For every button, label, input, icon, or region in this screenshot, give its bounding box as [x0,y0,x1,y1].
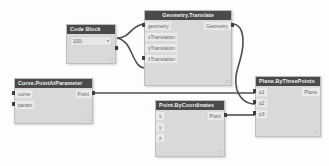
port-nub-in-curve[interactable] [12,91,15,95]
resize-grip-icon[interactable]: ∷ [87,117,90,122]
resize-grip-icon[interactable]: ∷ [219,150,222,155]
wire-geometry-to-p2 [232,24,255,104]
port-row-x: x Point [156,110,224,121]
port-nub-out-point[interactable] [224,113,227,117]
node-curve-point-at-parameter-body: curve Point param ∷ [15,88,92,123]
port-row-xtranslation: xTranslation [145,31,231,42]
port-nub-in-ztranslation[interactable] [142,56,145,60]
port-nub-out-geometry[interactable] [231,23,234,27]
port-in-curve[interactable]: curve [15,89,33,99]
code-block-value-field[interactable]: 100; ▾ [70,36,112,46]
port-nub-in-geometry[interactable] [142,23,145,27]
node-curve-point-at-parameter-title: Curve.PointAtParameter [15,79,92,88]
code-block-value: 100; [73,37,83,45]
port-out-geometry[interactable]: Geometry [203,21,231,31]
chevron-down-icon[interactable]: ▾ [107,37,109,45]
port-in-geometry[interactable]: geometry [145,21,172,31]
node-plane-by-three-points-body: p1 Plane p2 p3 ∷ [256,86,320,136]
port-nub-out-point[interactable] [92,91,95,95]
node-code-block-body: 100; ▾ ∷ [67,34,115,63]
node-code-block-title: Code Block [67,25,115,34]
node-plane-by-three-points[interactable]: Plane.ByThreePoints p1 Plane p2 p3 ∷ [255,76,321,137]
port-in-y[interactable]: y [156,122,165,132]
port-out-codeblock[interactable] [115,46,118,50]
resize-grip-icon[interactable]: ∷ [315,130,318,135]
port-out-point[interactable]: Point [207,111,224,121]
port-row-ytranslation: yTranslation [145,42,231,53]
node-code-block[interactable]: Code Block 100; ▾ ∷ [66,24,116,64]
port-in-x[interactable]: x [156,111,165,121]
node-graph-canvas[interactable]: Code Block 100; ▾ ∷ Geometry.Translate g… [0,0,329,166]
node-geometry-translate[interactable]: Geometry.Translate geometry Geometry xTr… [144,10,232,86]
port-out-plane[interactable]: Plane [301,87,320,97]
node-plane-by-three-points-title: Plane.ByThreePoints [256,77,320,86]
port-in-z[interactable]: z [156,133,165,143]
port-in-param[interactable]: param [15,100,35,110]
port-in-ztranslation[interactable]: zTranslation [145,54,178,64]
port-in-p2[interactable]: p2 [256,98,268,108]
resize-grip-icon[interactable]: ∷ [110,57,113,62]
port-row-geometry: geometry Geometry [145,20,231,31]
port-nub-in-p2[interactable] [253,100,256,104]
port-nub-in-p3[interactable] [253,111,256,115]
wire-codeblock-to-geometry [117,24,144,38]
port-row-curve: curve Point [15,88,92,99]
port-row-p3: p3 [256,108,320,119]
port-row-ztranslation: zTranslation [145,53,231,64]
port-in-xtranslation[interactable]: xTranslation [145,32,178,42]
port-row-p2: p2 [256,97,320,108]
node-point-by-coordinates-body: x Point y z ∷ [156,110,224,156]
resize-grip-icon[interactable]: ∷ [226,79,229,84]
port-nub-in-param[interactable] [12,102,15,106]
port-row-param: param [15,99,92,110]
port-nub-in-p1[interactable] [253,89,256,93]
node-point-by-coordinates-title: Point.ByCoordinates [156,101,224,110]
node-point-by-coordinates[interactable]: Point.ByCoordinates x Point y z ∷ [155,100,225,157]
port-in-p3[interactable]: p3 [256,109,268,119]
port-in-p1[interactable]: p1 [256,87,268,97]
node-geometry-translate-body: geometry Geometry xTranslation yTranslat… [145,20,231,85]
port-out-point[interactable]: Point [75,89,92,99]
wire-codeblock-to-ztranslation [117,38,144,68]
port-row-y: y [156,121,224,132]
port-in-ytranslation[interactable]: yTranslation [145,43,178,53]
node-curve-point-at-parameter[interactable]: Curve.PointAtParameter curve Point param… [14,78,93,124]
port-row-p1: p1 Plane [256,86,320,97]
port-row-z: z [156,132,224,143]
node-geometry-translate-title: Geometry.Translate [145,11,231,20]
